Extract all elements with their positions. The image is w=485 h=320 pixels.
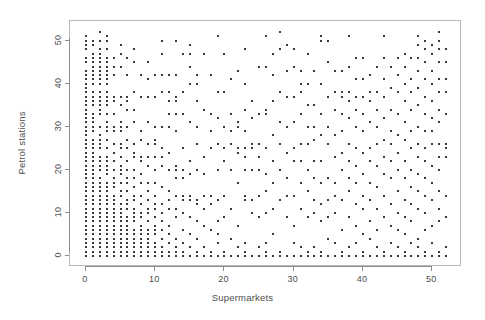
data-point — [397, 134, 399, 136]
data-point — [120, 147, 122, 149]
data-point — [431, 199, 433, 201]
data-point — [133, 121, 135, 123]
data-point — [120, 208, 122, 210]
data-point — [133, 156, 135, 158]
data-point — [92, 66, 94, 68]
data-point — [140, 251, 142, 253]
data-point — [286, 195, 288, 197]
data-point — [390, 143, 392, 145]
data-point — [390, 242, 392, 244]
data-point — [251, 199, 253, 201]
data-point — [113, 143, 115, 145]
data-point — [417, 44, 419, 46]
data-point — [320, 35, 322, 37]
data-point — [113, 246, 115, 248]
data-point — [161, 255, 163, 257]
data-point — [147, 229, 149, 231]
data-point — [390, 160, 392, 162]
data-point — [182, 242, 184, 244]
data-point — [106, 40, 108, 42]
data-point — [258, 143, 260, 145]
data-point — [140, 139, 142, 141]
data-point — [293, 160, 295, 162]
data-point — [161, 220, 163, 222]
data-point — [217, 35, 219, 37]
data-point — [154, 195, 156, 197]
data-point — [92, 199, 94, 201]
data-point — [133, 91, 135, 93]
y-tick — [65, 212, 69, 213]
data-point — [210, 74, 212, 76]
data-point — [126, 208, 128, 210]
data-point — [279, 143, 281, 145]
data-point — [355, 96, 357, 98]
data-point — [341, 96, 343, 98]
data-point — [113, 251, 115, 253]
data-point — [320, 40, 322, 42]
data-point — [147, 61, 149, 63]
data-point — [404, 251, 406, 253]
data-point — [133, 199, 135, 201]
data-point — [334, 91, 336, 93]
data-point — [99, 53, 101, 55]
data-point — [154, 96, 156, 98]
data-point — [175, 113, 177, 115]
data-point — [120, 242, 122, 244]
data-point — [120, 44, 122, 46]
data-point — [99, 160, 101, 162]
data-point — [113, 208, 115, 210]
data-point — [85, 143, 87, 145]
data-point — [99, 147, 101, 149]
data-point — [279, 48, 281, 50]
data-point — [140, 225, 142, 227]
data-point — [438, 40, 440, 42]
data-point — [113, 74, 115, 76]
data-point — [265, 109, 267, 111]
data-point — [431, 44, 433, 46]
data-point — [189, 83, 191, 85]
data-point — [120, 229, 122, 231]
data-point — [237, 182, 239, 184]
data-point — [92, 246, 94, 248]
data-point — [120, 251, 122, 253]
data-point — [210, 113, 212, 115]
data-point — [383, 251, 385, 253]
data-point — [106, 212, 108, 214]
data-point — [223, 216, 225, 218]
x-tick — [362, 267, 363, 271]
data-point — [168, 208, 170, 210]
data-point — [106, 190, 108, 192]
data-point — [106, 61, 108, 63]
data-point — [244, 130, 246, 132]
data-point — [120, 182, 122, 184]
data-point — [99, 61, 101, 63]
data-point — [168, 100, 170, 102]
data-point — [431, 255, 433, 257]
data-point — [85, 147, 87, 149]
data-point — [265, 255, 267, 257]
x-axis-line — [85, 266, 432, 267]
data-point — [438, 91, 440, 93]
data-point — [348, 160, 350, 162]
data-point — [397, 190, 399, 192]
data-point — [390, 87, 392, 89]
data-point — [175, 169, 177, 171]
data-point — [210, 147, 212, 149]
data-point — [196, 169, 198, 171]
data-point — [147, 96, 149, 98]
data-point — [341, 199, 343, 201]
data-point — [230, 255, 232, 257]
data-point — [106, 169, 108, 171]
data-point — [424, 78, 426, 80]
data-point — [154, 242, 156, 244]
data-point — [438, 208, 440, 210]
y-tick — [65, 169, 69, 170]
data-point — [445, 113, 447, 115]
data-point — [99, 169, 101, 171]
data-point — [85, 100, 87, 102]
data-point — [126, 246, 128, 248]
data-point — [390, 177, 392, 179]
data-point — [154, 233, 156, 235]
data-point — [417, 104, 419, 106]
data-point — [223, 160, 225, 162]
